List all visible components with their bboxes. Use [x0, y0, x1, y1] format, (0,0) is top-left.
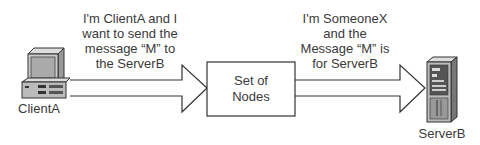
nodes-label: Set of Nodes — [207, 73, 295, 105]
message-left-line: want to send the — [55, 26, 205, 41]
message-left-line: message “M” to — [55, 41, 205, 56]
message-right-line: and the — [290, 26, 400, 41]
arrow-client-to-nodes — [70, 65, 207, 112]
server-tower-icon — [427, 57, 457, 122]
message-right: I'm SomeoneX and the Message “M” is for … — [290, 11, 400, 71]
server-label: ServerB — [414, 126, 470, 141]
message-right-line: for ServerB — [290, 56, 400, 71]
arrow-nodes-to-server — [295, 65, 425, 112]
message-left-line: the ServerB — [55, 56, 205, 71]
client-label: ClientA — [14, 101, 64, 116]
message-left: I'm ClientA and I want to send the messa… — [55, 11, 205, 71]
message-right-line: I'm SomeoneX — [290, 11, 400, 26]
message-left-line: I'm ClientA and I — [55, 11, 205, 26]
message-right-line: Message “M” is — [290, 41, 400, 56]
nodes-label-line2: Nodes — [207, 89, 295, 105]
nodes-label-line1: Set of — [207, 73, 295, 89]
